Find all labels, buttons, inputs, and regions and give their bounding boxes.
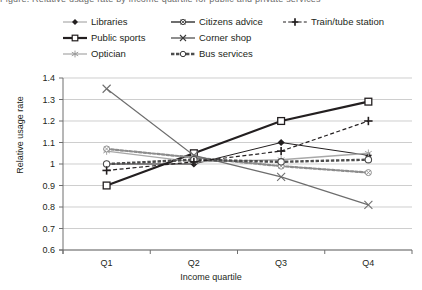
y-tick-label: 0.7 (29, 225, 55, 234)
y-tick-label: 0.8 (29, 203, 55, 212)
x-tick-label: Q2 (174, 259, 214, 268)
series-corner-shop (103, 85, 373, 209)
y-tick-label: 0.6 (29, 246, 55, 255)
series-public-sports (103, 98, 372, 189)
y-tick-label: 1.1 (29, 139, 55, 148)
figure: Figure: Relative usage rate by income qu… (0, 0, 422, 290)
x-tick-label: Q1 (87, 259, 127, 268)
y-tick-label: 1 (29, 160, 55, 169)
x-tick-label: Q3 (261, 259, 301, 268)
y-tick-label: 1.2 (29, 117, 55, 126)
x-tick-label: Q4 (348, 259, 388, 268)
y-tick-label: 0.9 (29, 182, 55, 191)
plot-area (0, 0, 422, 290)
y-tick-label: 1.3 (29, 96, 55, 105)
y-tick-label: 1.4 (29, 74, 55, 83)
